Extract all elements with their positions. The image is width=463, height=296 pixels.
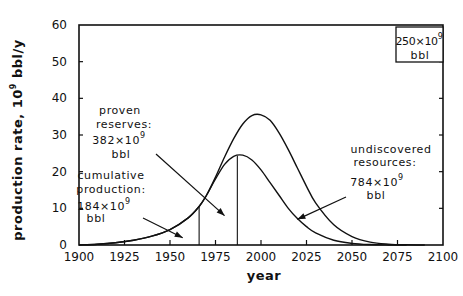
x-tick-label: 1950 [155,250,186,264]
production-chart: 190019251950197520002025205020752100 010… [0,0,463,296]
x-tick-label: 2100 [428,250,459,264]
x-tick-label: 1900 [64,250,95,264]
arrow-proven-reserves [156,154,225,216]
y-tick-label: 0 [59,238,67,252]
y-tick-label: 10 [52,201,67,215]
x-tick-label: 2050 [337,250,368,264]
annotation-cumulative-production: cumulative production: 184×109 bbl [76,169,145,225]
x-tick-label: 1925 [109,250,140,264]
annotation-boxed-unit: bbl [411,49,430,62]
annotation-arrows [143,154,346,238]
annotation-boxed-250: 250×109 bbl [395,27,443,62]
annotation-undiscovered-value: 784×109 [350,173,404,189]
y-tick-label: 20 [52,165,67,179]
x-tick-label: 2025 [291,250,322,264]
annotation-cumulative-value: 184×109 [77,197,131,213]
y-axis-title: production rate, 109 bbl/y [9,39,25,240]
x-tick-label: 1975 [200,250,231,264]
x-axis-title: year [247,268,282,283]
annotation-undiscovered-line1: undiscovered [351,143,432,156]
annotation-cumulative-line1: cumulative [77,169,144,182]
annotation-proven-line1: proven [99,104,141,117]
annotation-undiscovered-line2: resources: [353,156,416,169]
x-tick-label: 2075 [382,250,413,264]
arrow-undiscovered-resources [297,197,346,219]
x-axis: 190019251950197520002025205020752100 [64,240,459,264]
annotation-cumulative-unit: bbl [87,212,106,225]
annotation-boxed-value: 250×109 [395,32,442,48]
y-tick-label: 40 [52,91,67,105]
annotation-proven-line2: reserves: [96,118,152,131]
annotation-proven-value: 382×109 [92,131,146,147]
vertical-markers [199,156,237,245]
annotation-proven-reserves: proven reserves: 382×109 bbl [92,104,152,161]
y-tick-label: 30 [52,128,67,142]
arrow-undiscovered-resources-head [297,213,306,219]
annotation-undiscovered-unit: bbl [367,189,386,202]
arrow-cumulative-production-head [174,231,183,237]
x-tick-label: 2000 [246,250,277,264]
annotation-cumulative-line2: production: [76,183,145,196]
annotation-undiscovered-resources: undiscovered resources: 784×109 bbl [350,143,431,202]
y-tick-label: 60 [52,18,67,32]
y-tick-label: 50 [52,55,67,69]
annotation-proven-unit: bbl [112,148,131,161]
